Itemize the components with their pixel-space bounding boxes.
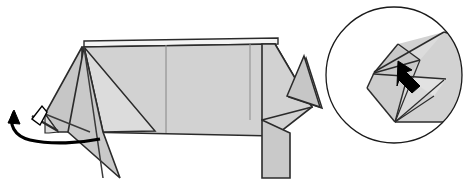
origami-diagram-figure [0, 0, 464, 185]
diagram-canvas [0, 0, 464, 185]
